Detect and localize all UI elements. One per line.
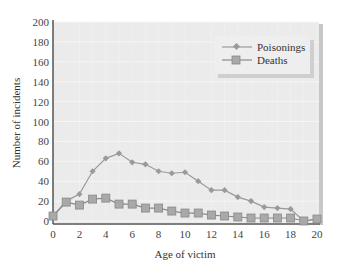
- y-tick-label: 140: [33, 76, 50, 88]
- x-tick-label: 16: [259, 228, 271, 240]
- y-tick-label: 40: [38, 175, 50, 187]
- line-chart: 020406080100120140160180200 024681012141…: [0, 0, 338, 272]
- deaths-point: [89, 195, 97, 203]
- x-axis-label: Age of victim: [154, 248, 216, 260]
- deaths-point: [141, 204, 149, 212]
- y-tick-label: 60: [38, 155, 50, 167]
- y-tick-label: 120: [33, 96, 50, 108]
- y-axis-label: Number of incidents: [10, 78, 22, 168]
- deaths-point: [234, 213, 242, 221]
- deaths-point: [300, 217, 308, 225]
- deaths-point: [155, 204, 163, 212]
- x-tick-label: 10: [180, 228, 192, 240]
- y-tick-label: 180: [33, 36, 50, 48]
- y-axis-ticks: 020406080100120140160180200: [33, 16, 50, 227]
- legend-deaths: Deaths: [257, 54, 288, 66]
- y-tick-label: 80: [38, 135, 50, 147]
- deaths-point: [273, 214, 281, 222]
- deaths-point: [128, 200, 136, 208]
- x-tick-label: 2: [77, 228, 83, 240]
- y-tick-label: 100: [33, 116, 50, 128]
- deaths-point: [75, 201, 83, 209]
- x-tick-label: 4: [103, 228, 109, 240]
- deaths-point: [168, 207, 176, 215]
- deaths-point: [313, 215, 321, 223]
- x-tick-label: 14: [232, 228, 244, 240]
- square-marker-icon: [232, 56, 240, 64]
- deaths-point: [247, 214, 255, 222]
- x-tick-label: 18: [285, 228, 297, 240]
- legend-poisonings: Poisonings: [257, 41, 305, 53]
- deaths-point: [102, 194, 110, 202]
- deaths-point: [194, 209, 202, 217]
- deaths-point: [181, 209, 189, 217]
- deaths-point: [287, 214, 295, 222]
- deaths-point: [62, 198, 70, 206]
- x-tick-label: 0: [50, 228, 56, 240]
- y-tick-label: 160: [33, 56, 50, 68]
- deaths-point: [49, 212, 57, 220]
- deaths-point: [207, 211, 215, 219]
- deaths-point: [260, 214, 268, 222]
- x-tick-label: 12: [206, 228, 217, 240]
- x-tick-label: 6: [129, 228, 135, 240]
- x-tick-label: 8: [156, 228, 162, 240]
- y-tick-label: 0: [44, 215, 50, 227]
- x-tick-label: 20: [312, 228, 324, 240]
- deaths-point: [221, 212, 229, 220]
- y-tick-label: 20: [38, 195, 50, 207]
- x-axis-ticks: 02468101214161820: [50, 228, 323, 240]
- legend: Poisonings Deaths: [214, 36, 314, 78]
- y-tick-label: 200: [33, 16, 50, 28]
- deaths-point: [115, 200, 123, 208]
